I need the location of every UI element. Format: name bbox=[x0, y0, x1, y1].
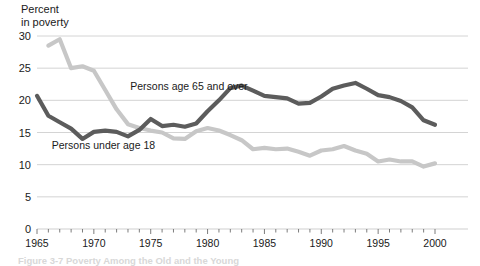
x-axis-tick-label: 2000 bbox=[423, 237, 447, 249]
x-axis-tick-labels: 19651970197519801985199019952000 bbox=[25, 237, 447, 249]
x-axis-tick-label: 1980 bbox=[196, 237, 220, 249]
series-label: Persons age 65 and over bbox=[130, 80, 248, 92]
x-axis-tick-label: 1970 bbox=[82, 237, 106, 249]
y-axis-tick-label: 30 bbox=[19, 30, 31, 42]
y-axis-tick-label: 10 bbox=[19, 159, 31, 171]
x-axis-tick-label: 1990 bbox=[310, 237, 334, 249]
y-axis-tick-label: 15 bbox=[19, 127, 31, 139]
x-axis-tick-label: 1985 bbox=[253, 237, 277, 249]
x-axis-tick-label: 1995 bbox=[366, 237, 390, 249]
y-axis-tick-label: 25 bbox=[19, 62, 31, 74]
series-annotation-labels: Persons age 65 and overPersons under age… bbox=[52, 80, 248, 151]
figure-caption: Figure 3-7 Poverty Among the Old and the… bbox=[18, 255, 478, 266]
series-label: Persons under age 18 bbox=[52, 139, 155, 151]
y-axis-tick-labels: 051015202530 bbox=[19, 30, 31, 235]
x-axis-tick-label: 1965 bbox=[25, 237, 49, 249]
y-axis-tick-label: 5 bbox=[25, 191, 31, 203]
y-axis-tick-label: 0 bbox=[25, 223, 31, 235]
x-axis-tick-marks bbox=[37, 229, 435, 234]
x-axis-tick-label: 1975 bbox=[139, 237, 163, 249]
y-axis-tick-label: 20 bbox=[19, 94, 31, 106]
